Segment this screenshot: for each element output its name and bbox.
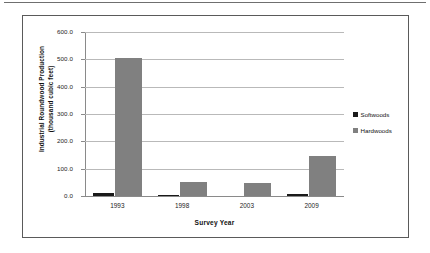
legend-item-hardwoods[interactable]: Hardwoods: [353, 126, 413, 134]
y-tick-label-200: 200.0: [33, 137, 73, 144]
x-tick-label-2009: 2009: [282, 202, 342, 209]
bar-softwoods-2009[interactable]: [287, 194, 308, 196]
y-tick-label-400: 400.0: [33, 83, 73, 90]
bar-hardwoods-2003[interactable]: [244, 183, 271, 196]
gridline-0: [85, 196, 344, 197]
y-tick-label-500: 500.0: [33, 55, 73, 62]
x-tick-label-2003: 2003: [217, 202, 277, 209]
x-tick-label-1993: 1993: [87, 202, 147, 209]
plot-area: [85, 32, 344, 196]
x-tick-label-1998: 1998: [152, 202, 212, 209]
chart-figure: Industrial Roundwood Production (thousan…: [22, 15, 409, 238]
y-tick-label-300: 300.0: [33, 110, 73, 117]
legend-item-softwoods[interactable]: Softwoods: [353, 110, 413, 118]
legend-swatch-icon-softwoods: [353, 112, 358, 117]
page-top-rule: [4, 2, 426, 3]
x-axis-title: Survey Year: [85, 219, 344, 226]
bar-softwoods-1998[interactable]: [158, 195, 179, 196]
y-tick-label-0: 0.0: [33, 192, 73, 199]
y-axis-title-line2: (thousand cubic feet): [46, 29, 55, 169]
bar-hardwoods-2009[interactable]: [309, 156, 336, 196]
legend-label-hardwoods: Hardwoods: [361, 127, 392, 134]
y-axis-title: Industrial Roundwood Production (thousan…: [37, 29, 55, 169]
bar-hardwoods-1993[interactable]: [115, 58, 142, 196]
chart-legend: SoftwoodsHardwoods: [353, 110, 413, 142]
gridline-600: [85, 32, 344, 33]
legend-swatch-icon-hardwoods: [353, 128, 358, 133]
bar-hardwoods-1998[interactable]: [180, 182, 207, 196]
legend-label-softwoods: Softwoods: [361, 111, 390, 118]
y-tick-label-100: 100.0: [33, 165, 73, 172]
bar-softwoods-1993[interactable]: [93, 193, 114, 196]
page-canvas: Industrial Roundwood Production (thousan…: [0, 0, 430, 253]
y-tick-label-600: 600.0: [33, 28, 73, 35]
